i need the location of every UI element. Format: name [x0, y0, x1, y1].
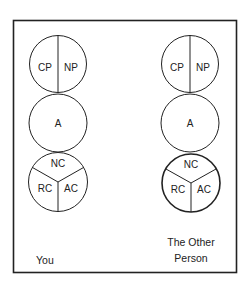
critical-parent-label: CP — [170, 62, 184, 73]
adult-ego-circle: A — [29, 94, 87, 152]
diagram-frame — [14, 21, 237, 273]
nurturing-parent-label: NP — [64, 62, 78, 73]
parent-ego-circle: CP NP — [30, 36, 87, 93]
natural-child-label: NC — [51, 158, 65, 169]
natural-child-label: NC — [184, 159, 198, 170]
adapted-child-label: AC — [64, 183, 78, 194]
adapted-child-label: AC — [197, 184, 211, 195]
nurturing-parent-label: NP — [196, 62, 210, 73]
adult-label: A — [187, 118, 194, 129]
parent-ego-circle: CP NP — [162, 36, 219, 93]
adult-label: A — [55, 118, 62, 129]
child-ego-circle: NC RC AC — [29, 153, 88, 212]
child-ego-circle: NC RC AC — [162, 154, 220, 212]
rebellious-child-label: RC — [38, 183, 52, 194]
ego-state-diagram: CP NP A NC RC AC You CP NP A — [0, 0, 246, 291]
critical-parent-label: CP — [38, 62, 52, 73]
column-other-person: CP NP A NC RC AC The Other Person — [161, 36, 220, 265]
rebellious-child-label: RC — [171, 184, 185, 195]
caption-other-line1: The Other — [167, 236, 215, 248]
caption-other-line2: Person — [174, 252, 207, 264]
caption-you: You — [36, 254, 54, 266]
column-you: CP NP A NC RC AC You — [29, 36, 88, 267]
adult-ego-circle: A — [161, 94, 219, 152]
